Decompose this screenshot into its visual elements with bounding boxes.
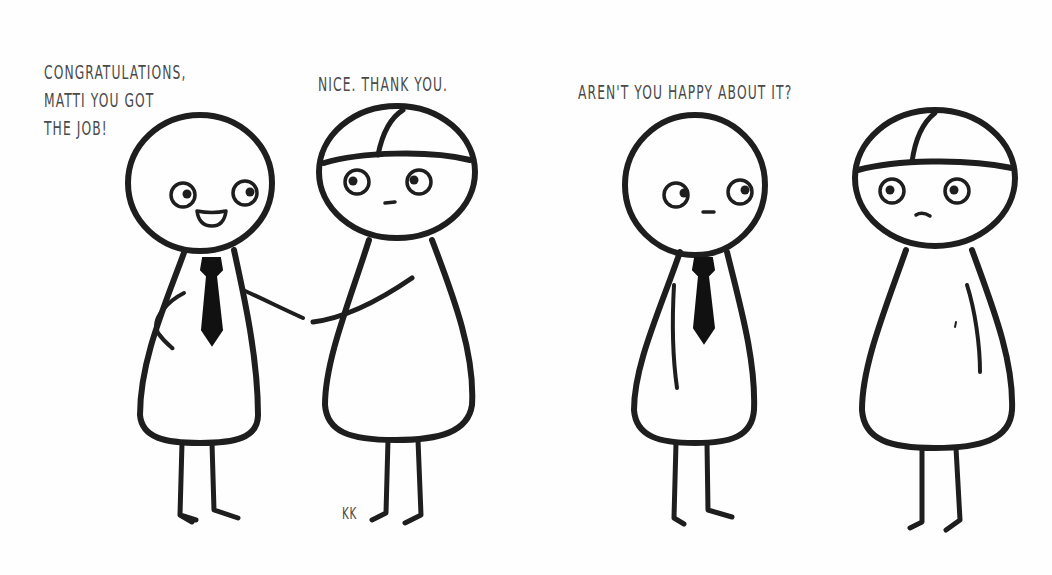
pupil-right <box>950 186 959 195</box>
leg-right <box>212 443 238 518</box>
right-arm-handshake <box>243 290 303 318</box>
pupil-right <box>741 186 750 195</box>
pupil-left <box>680 189 689 198</box>
arm <box>967 285 980 372</box>
pupil-right <box>246 188 255 197</box>
tie-character-panel-1 <box>128 115 303 522</box>
leg-right <box>405 440 421 523</box>
leg-left <box>372 440 388 520</box>
pupil-left <box>349 177 358 186</box>
pupil-left <box>183 190 192 199</box>
comic-strip: CONGRATULATIONS, MATTI YOU GOT THE JOB! … <box>0 0 1052 575</box>
leg-left <box>674 443 684 524</box>
matti-panel-1 <box>313 106 475 523</box>
leg-left <box>910 448 922 528</box>
head <box>319 106 475 238</box>
ink-mark <box>955 322 956 327</box>
body <box>862 250 1012 448</box>
pupil-right <box>410 176 419 185</box>
matti-panel-2 <box>855 110 1015 530</box>
pupil-left <box>886 186 895 195</box>
leg-right <box>707 443 732 517</box>
cap-seam-line <box>378 110 403 155</box>
speech-caption-arent-you-happy: AREN'T YOU HAPPY ABOUT IT? <box>578 78 792 106</box>
cap-seam-line <box>912 113 935 162</box>
speech-caption-thank-you: NICE. THANK YOU. <box>318 70 448 98</box>
tie-icon <box>693 258 714 343</box>
panel-2 <box>625 110 1015 530</box>
tie-character-panel-2 <box>625 115 765 524</box>
panel-1 <box>128 106 475 523</box>
smile-mouth <box>197 211 226 226</box>
leg-left <box>180 443 196 522</box>
speech-caption-congratulations: CONGRATULATIONS, MATTI YOU GOT THE JOB! <box>44 58 186 142</box>
body <box>634 252 754 443</box>
cap-brim-line <box>324 154 470 163</box>
tie-icon <box>201 258 222 345</box>
leg-right <box>946 448 960 530</box>
body <box>140 250 258 443</box>
head <box>625 115 765 255</box>
cap-brim-line <box>858 161 1012 170</box>
mouth <box>385 202 395 203</box>
frown-mouth <box>916 213 930 216</box>
body <box>325 240 472 440</box>
arm <box>673 285 677 388</box>
arm-handshake <box>313 278 412 322</box>
head <box>855 110 1015 246</box>
artist-signature: KK <box>342 500 357 528</box>
